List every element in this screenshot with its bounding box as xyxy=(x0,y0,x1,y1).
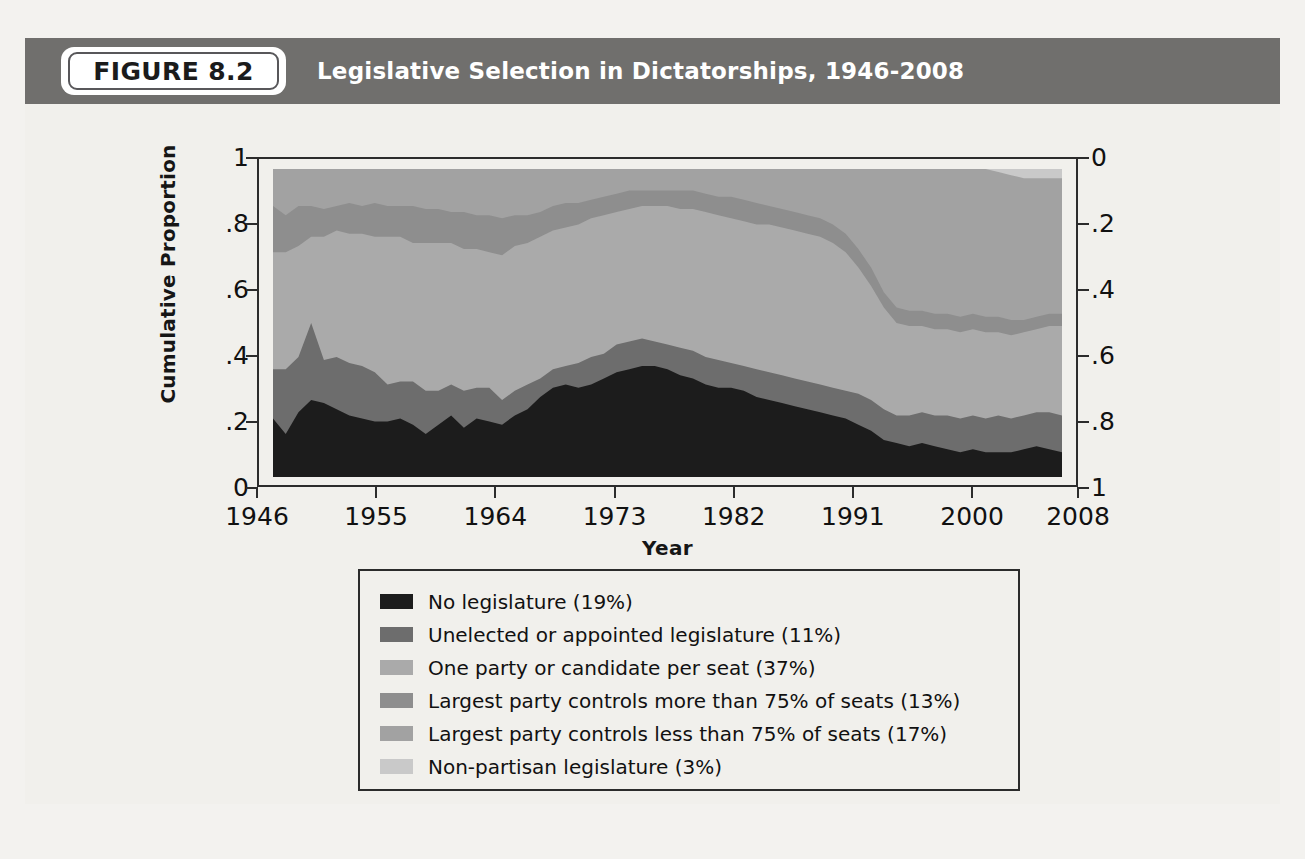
x-axis-tick-label: 1955 xyxy=(321,502,431,531)
y-axis-left-tick-label: 0 xyxy=(185,473,249,502)
legend-color-swatch xyxy=(380,660,413,675)
figure-page: FIGURE 8.2 Legislative Selection in Dict… xyxy=(0,0,1305,859)
figure-body: Cumulative Proportion 0.2.4.6.81 0.2.4.6… xyxy=(25,104,1280,804)
y-axis-right-tick-mark xyxy=(1078,223,1089,225)
y-axis-right-tick-mark xyxy=(1078,421,1089,423)
y-axis-left-tick-mark xyxy=(246,355,257,357)
x-axis-tick-mark xyxy=(1077,487,1079,498)
legend-item-label: Non-partisan legislature (3%) xyxy=(428,755,722,779)
figure-title: Legislative Selection in Dictatorships, … xyxy=(317,38,964,104)
x-axis-tick-label: 2000 xyxy=(917,502,1027,531)
y-axis-right-tick-label: .6 xyxy=(1091,341,1155,370)
x-axis-tick-mark xyxy=(971,487,973,498)
x-axis-tick-label: 1964 xyxy=(440,502,550,531)
chart-area: Cumulative Proportion 0.2.4.6.81 0.2.4.6… xyxy=(25,104,1280,564)
x-axis-tick-mark xyxy=(256,487,258,498)
legend-item: Unelected or appointed legislature (11%) xyxy=(380,618,1018,651)
legend-color-swatch xyxy=(380,726,413,741)
y-axis-left-tick-label: .6 xyxy=(185,275,249,304)
x-axis-tick-mark xyxy=(852,487,854,498)
plot-inner xyxy=(273,169,1062,477)
x-axis-tick-label: 1991 xyxy=(798,502,908,531)
legend-item: One party or candidate per seat (37%) xyxy=(380,651,1018,684)
y-axis-right-tick-label: .4 xyxy=(1091,275,1155,304)
legend-item-label: One party or candidate per seat (37%) xyxy=(428,656,816,680)
y-axis-right-tick-mark xyxy=(1078,157,1089,159)
y-axis-left-tick-mark xyxy=(246,289,257,291)
y-axis-left-tick-label: .4 xyxy=(185,341,249,370)
y-axis-left-tick-mark xyxy=(246,421,257,423)
y-axis-right-tick-label: .8 xyxy=(1091,407,1155,436)
x-axis-tick-label: 1973 xyxy=(560,502,670,531)
y-axis-right-tick-label: 1 xyxy=(1091,473,1155,502)
x-axis-tick-label: 2008 xyxy=(1023,502,1133,531)
legend-items: No legislature (19%)Unelected or appoint… xyxy=(380,585,1018,783)
legend-color-swatch xyxy=(380,594,413,609)
x-axis-tick-mark xyxy=(733,487,735,498)
stacked-area-plot xyxy=(273,169,1062,477)
y-axis-left-tick-mark xyxy=(246,223,257,225)
y-axis-right-tick-mark xyxy=(1078,355,1089,357)
plot-frame xyxy=(257,157,1078,487)
y-axis-left-tick-label: .2 xyxy=(185,407,249,436)
x-axis-tick-mark xyxy=(614,487,616,498)
figure-number-badge: FIGURE 8.2 xyxy=(61,47,286,95)
y-axis-right-tick-label: .2 xyxy=(1091,209,1155,238)
legend-item: Largest party controls more than 75% of … xyxy=(380,684,1018,717)
legend-color-swatch xyxy=(380,759,413,774)
y-axis-title: Cumulative Proportion xyxy=(156,109,180,439)
y-axis-right-tick-mark xyxy=(1078,289,1089,291)
y-axis-left-tick-mark xyxy=(246,157,257,159)
x-axis-tick-mark xyxy=(494,487,496,498)
legend-item: Largest party controls less than 75% of … xyxy=(380,717,1018,750)
legend-item-label: Largest party controls less than 75% of … xyxy=(428,722,947,746)
chart-legend: No legislature (19%)Unelected or appoint… xyxy=(358,569,1020,791)
figure-header-banner: FIGURE 8.2 Legislative Selection in Dict… xyxy=(25,38,1280,104)
legend-color-swatch xyxy=(380,627,413,642)
figure-number-label: FIGURE 8.2 xyxy=(93,57,254,86)
legend-item: Non-partisan legislature (3%) xyxy=(380,750,1018,783)
x-axis-tick-mark xyxy=(375,487,377,498)
y-axis-right-tick-label: 0 xyxy=(1091,143,1155,172)
x-axis-tick-label: 1946 xyxy=(202,502,312,531)
legend-item-label: Largest party controls more than 75% of … xyxy=(428,689,960,713)
x-axis-title: Year xyxy=(257,536,1078,560)
legend-color-swatch xyxy=(380,693,413,708)
y-axis-left-tick-label: .8 xyxy=(185,209,249,238)
y-axis-left-tick-label: 1 xyxy=(185,143,249,172)
x-axis-tick-label: 1982 xyxy=(679,502,789,531)
y-axis-right-tick-mark xyxy=(1078,487,1089,489)
legend-item-label: No legislature (19%) xyxy=(428,590,633,614)
legend-item: No legislature (19%) xyxy=(380,585,1018,618)
legend-item-label: Unelected or appointed legislature (11%) xyxy=(428,623,841,647)
